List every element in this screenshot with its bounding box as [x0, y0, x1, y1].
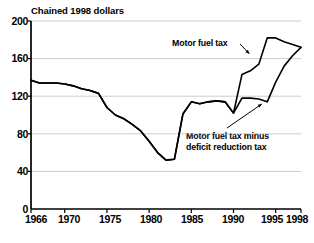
annotation-arrows	[227, 44, 262, 128]
axes	[31, 21, 301, 209]
chart-plot-area	[0, 0, 314, 243]
x-axis-ticks	[28, 21, 301, 213]
chart-container: Chained 1998 dollars 200 160 120 80 40 0…	[0, 0, 314, 243]
series-lines	[31, 38, 301, 160]
gridlines	[31, 21, 301, 171]
